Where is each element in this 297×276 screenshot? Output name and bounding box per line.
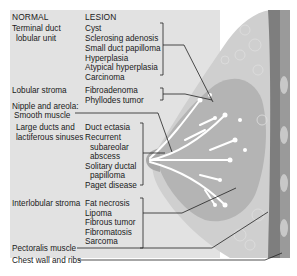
normal-lobular-unit: lobular unit <box>16 34 56 43</box>
lesion-item: Recurrent <box>85 133 121 142</box>
normal-column-header: NORMAL <box>12 13 48 22</box>
lesion-item: Atypical hyperplasia <box>85 63 158 72</box>
normal-large-ducts: Large ducts and <box>16 123 75 132</box>
normal-lobular-stroma: Lobular stroma <box>12 86 67 95</box>
lesion-item: Fibromatosis <box>85 228 132 237</box>
rib <box>280 76 288 94</box>
rib <box>280 219 288 237</box>
lesion-item: Fat necrosis <box>85 199 130 208</box>
lesion-item: Fibrous tumor <box>85 218 136 227</box>
lesion-item: Lipoma <box>85 209 112 218</box>
lesion-item: Sclerosing adenosis <box>85 34 158 43</box>
lesion-item: Phyllodes tumor <box>85 96 144 105</box>
lesion-item: Solitary ductal <box>85 162 136 171</box>
lesion-item: Carcinoma <box>85 73 125 82</box>
lesion-item: papilloma <box>90 171 125 180</box>
rib <box>280 174 288 192</box>
lesion-item: abscess <box>90 152 120 161</box>
lesion-item: Duct ectasia <box>85 123 130 132</box>
lesion-item: subareolar <box>90 143 129 152</box>
normal-chest-wall-ribs: Chest wall and ribs <box>12 256 81 265</box>
normal-pectoralis-muscle: Pectoralis muscle <box>12 244 76 253</box>
normal-interlobular-stroma: Interlobular stroma <box>12 199 80 208</box>
lesion-item: Fibroadenoma <box>85 86 138 95</box>
lesion-item: Hyperplasia <box>85 54 128 63</box>
lesion-item: Small duct papilloma <box>85 44 161 53</box>
rib <box>280 126 288 144</box>
normal-smooth-muscle: Smooth muscle <box>14 111 70 120</box>
normal-nipple-areola: Nipple and areola: <box>12 102 78 111</box>
lesion-column-header: LESION <box>85 13 116 22</box>
normal-lactiferous-sinuses: lactiferous sinuses <box>16 133 83 142</box>
lesion-item: Cyst <box>85 24 101 33</box>
normal-terminal-duct: Terminal duct <box>12 24 61 33</box>
lesion-item: Sarcoma <box>85 237 118 246</box>
lesion-item: Paget disease <box>85 181 137 190</box>
